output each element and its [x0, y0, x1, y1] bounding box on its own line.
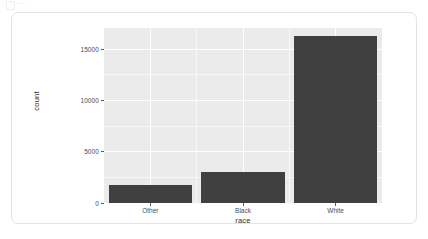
plot-panel [104, 28, 382, 203]
x-tick-label-other: Other [120, 207, 180, 215]
y-tick-mark [101, 49, 104, 50]
image-placeholder-icon [4, 1, 26, 10]
y-tick-label: 10000 [55, 97, 99, 104]
bar-other[interactable] [109, 185, 192, 203]
gridline-minor-vertical [289, 28, 290, 203]
image-placeholder-box [6, 1, 15, 10]
y-tick-mark [101, 151, 104, 152]
x-tick-mark [150, 203, 151, 206]
figure-card: 050001000015000 count OtherBlackWhite ra… [11, 12, 417, 224]
image-placeholder-bar [16, 3, 25, 4]
gridline-minor-vertical [196, 28, 197, 203]
bar-white[interactable] [294, 36, 377, 203]
y-tick-mark [101, 203, 104, 204]
y-tick-label: 0 [55, 200, 99, 207]
bar-chart-plot: 050001000015000 count OtherBlackWhite ra… [12, 13, 418, 225]
y-tick-label: 15000 [55, 46, 99, 53]
y-tick-mark [101, 100, 104, 101]
gridline-major-vertical [150, 28, 151, 203]
y-axis-title: count [32, 91, 41, 110]
x-tick-mark [335, 203, 336, 206]
bar-black[interactable] [201, 172, 284, 203]
y-tick-label: 5000 [55, 148, 99, 155]
x-tick-label-white: White [306, 207, 366, 215]
x-axis-title: race [104, 216, 382, 225]
x-tick-mark [243, 203, 244, 206]
x-tick-label-black: Black [213, 207, 273, 215]
